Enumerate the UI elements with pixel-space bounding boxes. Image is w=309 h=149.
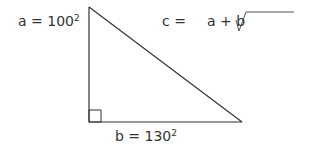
label-a-eq: = [31, 13, 43, 29]
label-b-name: b [115, 128, 124, 144]
label-b-eq: = [128, 128, 140, 144]
label-c-expr: a + b [207, 13, 245, 29]
label-a-value: 100 [47, 13, 74, 29]
label-a: a = 1002 [18, 13, 80, 29]
label-b-exponent: 2 [171, 128, 177, 138]
label-b-value: 130 [145, 128, 172, 144]
label-c-lhs: c = [162, 13, 186, 29]
label-b: b = 1302 [115, 128, 177, 144]
label-a-exponent: 2 [74, 13, 80, 23]
label-a-name: a [18, 13, 27, 29]
right-angle-marker [89, 110, 101, 122]
